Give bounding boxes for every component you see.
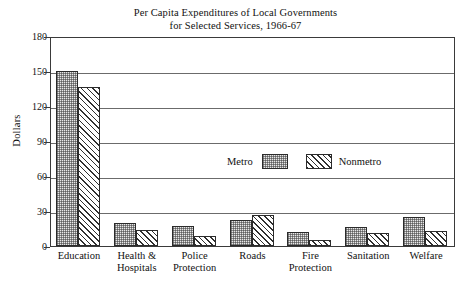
chart-legend: Metro Nonmetro [227, 151, 381, 171]
bar-metro [172, 226, 194, 246]
legend-label-nonmetro: Nonmetro [339, 156, 382, 167]
bar-metro [114, 223, 136, 246]
bar-nonmetro [194, 236, 216, 247]
bar-metro [345, 227, 367, 246]
legend-label-metro: Metro [227, 156, 253, 167]
bar-metro [287, 232, 309, 246]
bar-nonmetro [309, 240, 331, 246]
y-axis-tick-label: 120 [7, 101, 47, 112]
gridline [51, 73, 454, 74]
plot-area: Metro Nonmetro [50, 37, 455, 247]
y-axis-tick-mark [44, 247, 50, 248]
bar-nonmetro [425, 231, 447, 246]
legend-swatch-nonmetro [306, 154, 332, 169]
gridline [51, 143, 454, 144]
chart-title-line-2: for Selected Services, 1966-67 [0, 20, 471, 33]
y-axis-tick-label: 30 [7, 206, 47, 217]
bar-nonmetro [136, 230, 158, 246]
bar-nonmetro [252, 215, 274, 247]
gridline [51, 178, 454, 179]
bar-metro [403, 217, 425, 246]
gridline [51, 108, 454, 109]
bar-metro [230, 220, 252, 246]
legend-swatch-metro [262, 154, 288, 169]
chart-figure: Per Capita Expenditures of Local Governm… [0, 0, 471, 284]
x-axis-category-label: Welfare [383, 250, 469, 262]
bar-nonmetro [78, 87, 100, 246]
y-axis-tick-label: 60 [7, 171, 47, 182]
bar-nonmetro [367, 233, 389, 246]
y-axis-tick-label: 180 [7, 31, 47, 42]
bar-metro [56, 71, 78, 246]
y-axis-tick-label: 90 [7, 136, 47, 147]
y-axis-tick-label: 150 [7, 66, 47, 77]
chart-title-line-1: Per Capita Expenditures of Local Governm… [0, 7, 471, 20]
chart-title: Per Capita Expenditures of Local Governm… [0, 7, 471, 32]
